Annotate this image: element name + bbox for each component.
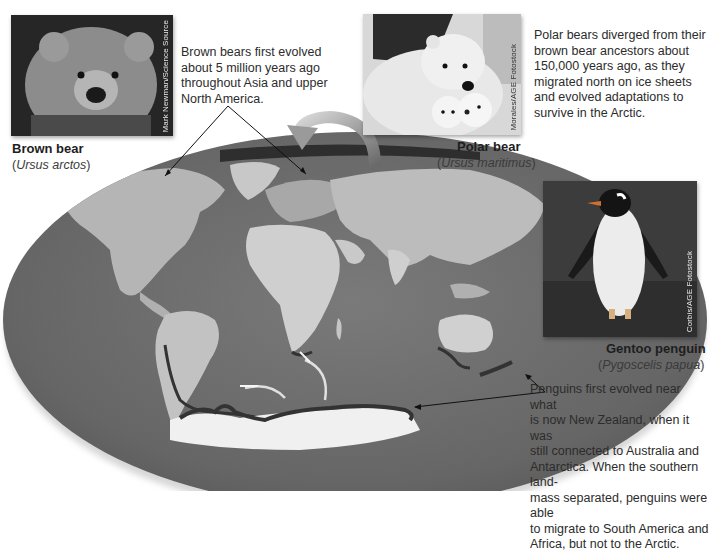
- polar-bear-photo: Morales/AGE Fotostock: [363, 14, 521, 135]
- polar-bear-note: Polar bears diverged from their brown be…: [534, 28, 706, 121]
- brown-bear-photo: Mark Newman/Science Source: [11, 15, 173, 136]
- polar-bear-name: Polar bear: [457, 139, 521, 154]
- australia: [438, 314, 493, 352]
- polar-bear-photo-credit: Morales/AGE Fotostock: [509, 44, 518, 131]
- gentoo-penguin-name: Gentoo penguin: [606, 341, 706, 356]
- brown-bear-scientific-name: (Ursus arctos): [12, 158, 91, 172]
- polar-bear-scientific-name: (Ursus maritimus): [437, 156, 536, 170]
- penguin-note: Penguins first evolved near what is now …: [530, 382, 710, 553]
- brown-bear-name: Brown bear: [12, 141, 84, 156]
- brown-bear-note: Brown bears first evolved about 5 millio…: [181, 45, 328, 107]
- gentoo-penguin-photo-credit: Corbis/AGE Fotostock: [685, 251, 694, 332]
- gentoo-penguin-photo: Corbis/AGE Fotostock: [543, 181, 697, 337]
- brown-bear-photo-credit: Mark Newman/Science Source: [161, 20, 170, 132]
- gentoo-penguin-scientific-name: (Pygoscelis papua): [598, 358, 704, 372]
